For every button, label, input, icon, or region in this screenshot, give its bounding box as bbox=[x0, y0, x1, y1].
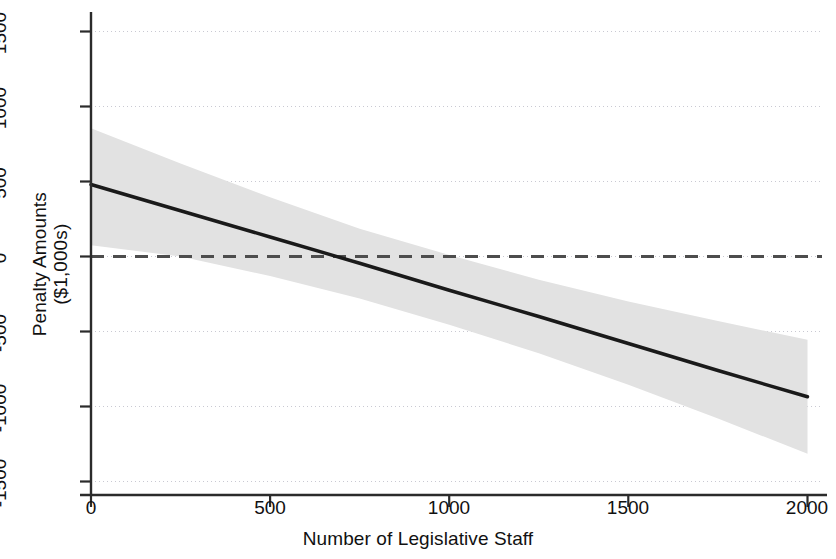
y-axis-title-line2: ($1,000s) bbox=[50, 224, 71, 305]
y-axis-title-line1: Penalty Amounts bbox=[29, 192, 50, 336]
x-tick-label-2000: 2000 bbox=[762, 497, 836, 519]
x-tick-label-1000: 1000 bbox=[404, 497, 494, 519]
y-tick-marks bbox=[80, 32, 91, 482]
y-tick-label-neg1500: -1500 bbox=[0, 438, 11, 528]
y-axis-title: Penalty Amounts($1,000s) bbox=[29, 114, 72, 414]
plot-canvas bbox=[0, 0, 836, 559]
x-axis-title: Number of Legislative Staff bbox=[0, 528, 836, 550]
x-tick-label-0: 0 bbox=[46, 497, 136, 519]
fitted-line bbox=[91, 185, 808, 397]
x-tick-label-1500: 1500 bbox=[583, 497, 673, 519]
chart-figure: 0 500 1000 1500 2000 1500 1000 500 0 -50… bbox=[0, 0, 836, 559]
x-tick-label-500: 500 bbox=[225, 497, 315, 519]
